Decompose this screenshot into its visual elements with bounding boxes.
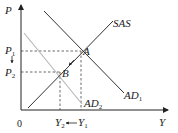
movement-arrow [69, 60, 74, 65]
ad2-label: AD2 [83, 97, 103, 111]
ad2-curve [24, 33, 82, 104]
point-b-label: B [62, 67, 69, 79]
y-axis-label: P [4, 4, 12, 16]
p2-label: P2 [4, 66, 16, 80]
p1-label: P1 [4, 44, 16, 58]
y2-label: Y2 [55, 116, 65, 130]
origin-label: 0 [17, 118, 22, 129]
x-axis-label: Y [159, 116, 167, 128]
point-a-label: A [82, 45, 90, 57]
sas-label: SAS [113, 17, 131, 29]
ad1-label: AD1 [123, 89, 143, 103]
ad-as-diagram: P Y 0 P1 P2 Y2 Y1 A B SAS AD1 AD2 [0, 0, 178, 133]
y1-label: Y1 [78, 116, 88, 130]
sas-curve [28, 21, 113, 108]
